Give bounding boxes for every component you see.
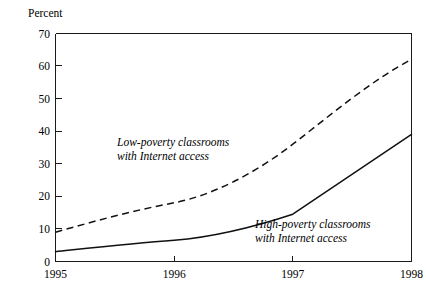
series-line-high-poverty — [56, 134, 412, 251]
x-axis-tick-labels: 1995 1996 1997 1998 — [44, 268, 423, 280]
y-tick-label-70: 70 — [39, 28, 51, 40]
y-tick-label-20: 20 — [39, 190, 51, 202]
low-poverty-annotation-line1: Low-poverty classrooms — [116, 136, 230, 149]
high-poverty-annotation-line1: High-poverty classrooms — [254, 218, 371, 231]
x-axis-ticks — [174, 256, 293, 262]
chart-container: Percent 0 10 20 30 40 50 60 70 — [0, 0, 426, 286]
y-tick-label-40: 40 — [39, 125, 51, 137]
line-chart: Percent 0 10 20 30 40 50 60 70 — [0, 0, 426, 286]
x-tick-label-1997: 1997 — [281, 268, 304, 280]
low-poverty-annotation: Low-poverty classrooms with Internet acc… — [116, 136, 230, 162]
x-tick-label-1998: 1998 — [400, 268, 423, 280]
x-tick-label-1996: 1996 — [163, 268, 186, 280]
y-tick-label-10: 10 — [39, 223, 51, 235]
y-axis-ticks — [56, 66, 62, 229]
low-poverty-annotation-line2: with Internet access — [117, 150, 210, 162]
y-tick-label-30: 30 — [39, 158, 51, 170]
y-tick-label-60: 60 — [39, 60, 51, 72]
y-tick-label-50: 50 — [39, 93, 51, 105]
high-poverty-annotation-line2: with Internet access — [255, 232, 348, 244]
x-tick-label-1995: 1995 — [44, 268, 67, 280]
high-poverty-annotation: High-poverty classrooms with Internet ac… — [254, 218, 371, 244]
y-axis-tick-labels: 0 10 20 30 40 50 60 70 — [39, 28, 51, 268]
y-axis-title: Percent — [28, 7, 63, 19]
y-tick-label-0: 0 — [44, 256, 50, 268]
series-line-low-poverty — [56, 59, 412, 232]
